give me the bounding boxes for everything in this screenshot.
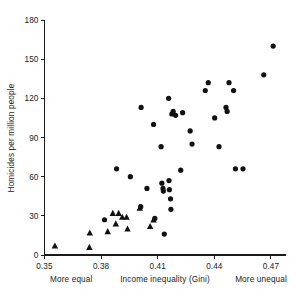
y-tick-label: 90: [29, 134, 39, 143]
axes: [45, 20, 287, 255]
data-point-circle: [168, 196, 173, 201]
annotation-more-equal: More equal: [50, 275, 92, 284]
data-point-triangle: [124, 225, 130, 231]
annotation-more-unequal: More unequal: [235, 275, 287, 284]
y-tick-label: 180: [25, 16, 39, 25]
data-point-circle: [144, 186, 149, 191]
x-axis-ticks: 0.350.380.410.440.47: [36, 255, 279, 271]
data-point-triangle: [52, 242, 58, 248]
data-point-triangle: [113, 220, 119, 226]
data-point-circle: [271, 44, 276, 49]
data-point-circle: [161, 188, 166, 193]
data-point-circle: [206, 80, 211, 85]
data-point-circle: [173, 113, 178, 118]
data-point-triangle: [87, 229, 93, 235]
x-tick-label: 0.38: [93, 262, 110, 271]
data-point-circle: [166, 178, 171, 183]
data-point-circle: [180, 110, 185, 115]
x-tick-label: 0.44: [206, 262, 223, 271]
x-tick-label: 0.35: [36, 262, 53, 271]
data-point-circle: [261, 72, 266, 77]
y-axis-ticks: 0306090120150180: [25, 16, 45, 260]
data-point-circle: [188, 128, 193, 133]
data-point-circle: [152, 216, 157, 221]
y-tick-label: 120: [25, 94, 39, 103]
chart-canvas: 0306090120150180 0.350.380.410.440.47 Ho…: [0, 0, 300, 299]
x-tick-label: 0.47: [263, 262, 280, 271]
y-axis-title: Homicides per million people: [7, 83, 16, 192]
data-point-triangle: [147, 223, 153, 229]
data-point-circle: [139, 105, 144, 110]
data-point-circle: [203, 88, 208, 93]
data-point-circle: [212, 115, 217, 120]
data-point-circle: [102, 217, 107, 222]
y-tick-label: 30: [29, 212, 39, 221]
data-point-triangle: [86, 244, 92, 250]
data-point-circle: [189, 141, 194, 146]
data-point-circle: [128, 174, 133, 179]
data-point-circle: [231, 88, 236, 93]
data-point-circle: [159, 181, 164, 186]
data-point-circle: [151, 122, 156, 127]
x-axis-title: Income inequality (Gini): [120, 275, 210, 284]
data-point-triangle: [110, 210, 116, 216]
data-point-circle: [166, 96, 171, 101]
y-tick-label: 0: [34, 251, 39, 260]
scatter-plot-figure: 0306090120150180 0.350.380.410.440.47 Ho…: [0, 0, 300, 299]
data-point-circle: [226, 80, 231, 85]
data-point-circle: [233, 166, 238, 171]
data-point-triangle: [104, 228, 110, 234]
data-point-circle: [216, 144, 221, 149]
data-point-triangle: [115, 210, 121, 216]
data-point-circle: [168, 207, 173, 212]
data-point-circle: [178, 168, 183, 173]
data-point-circle: [167, 187, 172, 192]
data-point-circle: [225, 109, 230, 114]
y-tick-label: 60: [29, 173, 39, 182]
data-point-circle: [162, 232, 167, 237]
y-tick-label: 150: [25, 55, 39, 64]
data-point-circle: [158, 144, 163, 149]
data-point-triangle: [123, 214, 129, 220]
data-point-circle: [138, 204, 143, 209]
data-point-circle: [240, 166, 245, 171]
data-point-circle: [114, 166, 119, 171]
x-tick-label: 0.41: [150, 262, 167, 271]
data-points-layer: [52, 44, 276, 250]
